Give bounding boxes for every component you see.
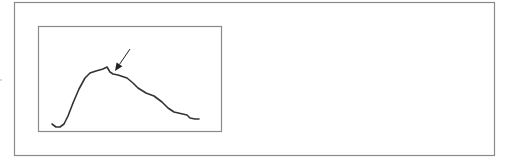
arrow-icon (115, 62, 122, 71)
diagram-canvas (0, 0, 515, 163)
stray-dot (0, 79, 2, 81)
signal-curve (52, 67, 199, 127)
plot-frame (39, 27, 222, 132)
arrow-shaft (120, 49, 130, 64)
outer-frame (15, 3, 495, 156)
